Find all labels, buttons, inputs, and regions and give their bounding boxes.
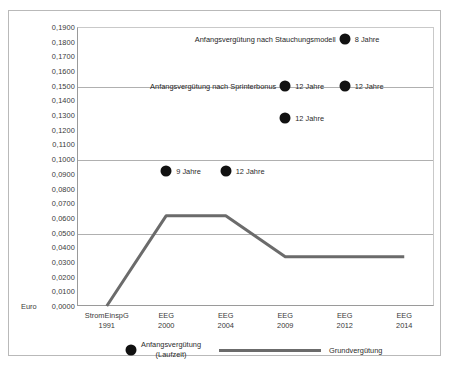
legend-marker-label-line2: (Laufzeit) [141, 350, 201, 360]
data-point-label: 12 Jahre [295, 81, 324, 90]
x-axis-tick-label: EEG2004 [218, 311, 234, 330]
y-axis-unit-label: Euro [21, 302, 37, 311]
data-point-dot [280, 113, 291, 124]
data-point-label: 12 Jahre [295, 114, 324, 123]
x-axis-tick-label-line: 2012 [337, 321, 353, 331]
y-axis-tick-label: 0,0600 [52, 213, 75, 222]
x-axis-tick-label-line: EEG [337, 311, 353, 321]
y-axis-tick-label: 0,1200 [52, 125, 75, 134]
x-axis-tick-label-line: 1991 [85, 321, 129, 331]
y-axis-tick-label: 0,1500 [52, 81, 75, 90]
y-axis-tick-label: 0,0000 [52, 302, 75, 311]
x-axis-tick-label-line: EEG [158, 311, 174, 321]
x-axis-tick-label: EEG2000 [158, 311, 174, 330]
grundverguetung-polyline [107, 216, 405, 306]
y-axis-tick-labels: 0,19000,18000,17000,16000,15000,14000,13… [9, 27, 75, 306]
y-axis-tick-label: 0,1000 [52, 155, 75, 164]
y-axis-tick-label: 0,1300 [52, 111, 75, 120]
x-axis-tick-label-line: EEG [277, 311, 293, 321]
y-axis-tick-label: 0,1700 [52, 52, 75, 61]
legend-line-label: Grundvergütung [329, 346, 382, 355]
y-axis-tick-label: 0,0200 [52, 272, 75, 281]
x-axis-tick-label-line: EEG [396, 311, 412, 321]
x-axis-tick-label-line: 2004 [218, 321, 234, 331]
legend-line-swatch [219, 349, 321, 352]
legend-marker-label: Anfangsvergütung (Laufzeit) [141, 340, 201, 360]
y-axis-tick-label: 0,0900 [52, 169, 75, 178]
data-point-dot [280, 80, 291, 91]
chart-annotation: Anfangsvergütung nach Sprinterbonus [150, 81, 276, 90]
x-axis-tick-label-line: StromEinspG [85, 311, 129, 321]
x-axis-tick-label-line: 2014 [396, 321, 412, 331]
data-point-dot [339, 33, 350, 44]
x-axis-tick-label-line: 2000 [158, 321, 174, 331]
x-axis-tick-label-line: 2009 [277, 321, 293, 331]
x-axis-tick-label: StromEinspG1991 [85, 311, 129, 330]
legend-marker-dot-icon [126, 345, 137, 356]
x-axis-tick-label-line: EEG [218, 311, 234, 321]
data-point-label: 8 Jahre [355, 34, 380, 43]
y-axis-tick-label: 0,0800 [52, 184, 75, 193]
data-point-dot [220, 165, 231, 176]
y-axis-tick-label: 0,1600 [52, 67, 75, 76]
y-axis-tick-label: 0,1400 [52, 96, 75, 105]
data-point-label: 12 Jahre [236, 166, 265, 175]
y-axis-tick-label: 0,0400 [52, 243, 75, 252]
y-axis-tick-label: 0,0100 [52, 287, 75, 296]
x-axis-tick-label: EEG2012 [337, 311, 353, 330]
y-axis-tick-label: 0,1800 [52, 37, 75, 46]
data-point-dot [161, 165, 172, 176]
chart-legend: Anfangsvergütung (Laufzeit) Grundvergütu… [9, 337, 442, 363]
y-axis-tick-label: 0,1900 [52, 23, 75, 32]
x-axis-tick-label: EEG2014 [396, 311, 412, 330]
data-point-dot [339, 80, 350, 91]
y-axis-tick-label: 0,0500 [52, 228, 75, 237]
data-point-label: 12 Jahre [355, 81, 384, 90]
data-point-label: 9 Jahre [176, 166, 201, 175]
y-axis-tick-label: 0,0300 [52, 257, 75, 266]
chart-annotation: Anfangsvergütung nach Stauchungsmodell [195, 34, 336, 43]
chart-frame: 0,19000,18000,17000,16000,15000,14000,13… [8, 10, 441, 356]
x-axis-tick-label: EEG2009 [277, 311, 293, 330]
legend-marker-label-line1: Anfangsvergütung [141, 340, 201, 350]
y-axis-tick-label: 0,0700 [52, 199, 75, 208]
y-axis-tick-label: 0,1100 [52, 140, 75, 149]
